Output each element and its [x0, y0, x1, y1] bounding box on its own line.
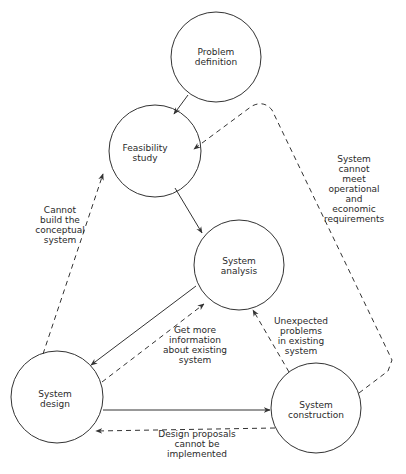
- label-design-proposals: Design proposals cannot be implemented: [158, 429, 235, 459]
- label-system-construction: System construction: [288, 400, 344, 420]
- label-unexpected-problems: Unexpected problems in existing system: [274, 316, 328, 356]
- label-cannot-meet: System cannot meet operational and econo…: [324, 154, 384, 224]
- label-cannot-build: Cannot build the conceptual system: [35, 205, 85, 245]
- edge-feasibility-to-analysis: [175, 188, 202, 233]
- label-system-analysis: System analysis: [221, 256, 257, 276]
- sdlc-diagram: Problem definition Feasibility study Sys…: [0, 0, 406, 474]
- label-feasibility-study: Feasibility study: [123, 143, 168, 163]
- edge-problem-to-feasibility: [174, 95, 188, 114]
- edge-design-to-feasibility: [43, 174, 103, 354]
- label-problem-definition: Problem definition: [195, 47, 237, 67]
- label-get-more-info: Get more information about existing syst…: [163, 325, 227, 365]
- label-system-design: System design: [38, 389, 72, 409]
